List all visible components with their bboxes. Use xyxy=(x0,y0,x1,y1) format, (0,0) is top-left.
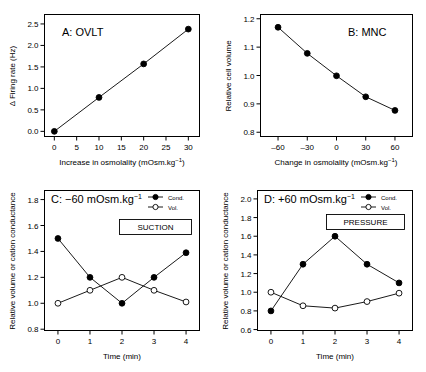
panel-a-title: A: OVLT xyxy=(62,26,104,38)
panel-b-plot: –60–3003060 0.80.91.01.11.2 B: MNC Chang… xyxy=(213,0,426,186)
data-point xyxy=(119,274,125,280)
x-tick-label: 10 xyxy=(95,143,104,152)
series-line-cond xyxy=(58,238,186,303)
x-tick-label: 25 xyxy=(162,143,171,152)
y-tick-label: 1.4 xyxy=(240,251,252,260)
y-tick-label: 1.5 xyxy=(27,63,39,72)
data-point xyxy=(55,236,61,242)
panel-a-xlabel: Increase in osmolality (mOsm.kg−1) xyxy=(59,157,185,167)
series-line-firingrate xyxy=(54,29,188,131)
x-tick-label: 3 xyxy=(152,337,157,346)
panel-b-ylabel: Relative cell volume xyxy=(224,40,233,112)
data-point xyxy=(392,108,398,114)
y-tick-label: 1.6 xyxy=(27,222,39,231)
data-point xyxy=(51,128,57,134)
y-tick-label: 1.8 xyxy=(240,214,252,223)
panel-d: 01234 0.60.81.01.21.41.61.82.0 D: +60 mO… xyxy=(213,186,426,372)
x-tick-label: 20 xyxy=(139,143,148,152)
y-tick-label: 0.9 xyxy=(243,100,255,109)
legend-label-vol-c: Vol. xyxy=(168,205,178,211)
y-tick-label: 1.8 xyxy=(27,196,39,205)
data-point xyxy=(151,274,157,280)
data-point xyxy=(141,61,147,67)
panel-b: –60–3003060 0.80.91.01.11.2 B: MNC Chang… xyxy=(213,0,426,186)
panel-d-yticks: 0.60.81.01.21.41.61.82.0 xyxy=(240,195,257,335)
x-tick-label: 1 xyxy=(301,337,306,346)
panel-d-plot: 01234 0.60.81.01.21.41.61.82.0 D: +60 mO… xyxy=(213,186,426,372)
y-tick-label: 0.0 xyxy=(27,127,39,136)
panel-a: 051015202530 0.00.51.01.52.02.5 A: OVLT … xyxy=(0,0,213,186)
panel-c-title: C: −60 mOsm.kg−1 xyxy=(51,193,142,205)
legend-marker-vol-d xyxy=(366,204,371,209)
y-tick-label: 2.0 xyxy=(240,195,252,204)
x-tick-label: 3 xyxy=(365,337,370,346)
data-point xyxy=(364,261,370,267)
panel-a-xlabel-main: Increase in osmolality (mOsm.kg xyxy=(59,158,175,167)
panel-c-yticks: 0.81.01.21.41.61.8 xyxy=(27,196,44,335)
x-tick-label: 4 xyxy=(397,337,402,346)
panel-a-xticks: 051015202530 xyxy=(52,137,193,152)
x-tick-label: 60 xyxy=(391,143,400,152)
legend-label-cond-c: Cond. xyxy=(168,195,184,201)
panel-c-ylabel: Relative volume or cation conductance xyxy=(8,192,17,330)
data-point xyxy=(87,287,93,293)
y-tick-label: 1.1 xyxy=(243,43,255,52)
x-tick-label: 0 xyxy=(334,143,339,152)
x-tick-label: –60 xyxy=(271,143,285,152)
panel-a-plot: 051015202530 0.00.51.01.52.02.5 A: OVLT … xyxy=(0,0,213,186)
data-point xyxy=(183,299,189,305)
legend-marker-vol-c xyxy=(153,204,158,209)
x-tick-label: 15 xyxy=(117,143,126,152)
panel-d-data xyxy=(268,233,402,313)
pressure-label: PRESSURE xyxy=(343,218,387,227)
y-tick-label: 2.5 xyxy=(27,20,39,29)
x-tick-label: 0 xyxy=(52,143,57,152)
suction-label: SUCTION xyxy=(138,223,174,232)
panel-d-ylabel: Relative volume or cation conductance xyxy=(221,192,230,330)
panel-c-data xyxy=(55,236,189,307)
data-point xyxy=(268,308,274,314)
panel-a-ylabel: Δ Firing rate (Hz) xyxy=(8,45,17,106)
y-tick-label: 1.0 xyxy=(243,72,255,81)
x-tick-label: 2 xyxy=(120,337,125,346)
panel-c-plot: 01234 0.81.01.21.41.61.8 C: −60 mOsm.kg−… xyxy=(0,186,213,372)
panel-b-xlabel: Change in osmolality (mOsm.kg−1) xyxy=(275,157,398,167)
y-tick-label: 0.8 xyxy=(240,307,252,316)
panel-a-data xyxy=(51,26,191,134)
y-tick-label: 1.6 xyxy=(240,232,252,241)
panel-c-legend: Cond. Vol. xyxy=(148,194,184,210)
series-line-relativecellvolume xyxy=(278,27,395,110)
legend-marker-cond-c xyxy=(153,194,158,199)
y-tick-label: 1.2 xyxy=(243,15,255,24)
x-tick-label: 5 xyxy=(74,143,79,152)
y-tick-label: 0.8 xyxy=(27,325,39,334)
y-tick-label: 1.4 xyxy=(27,247,39,256)
panel-b-title: B: MNC xyxy=(348,26,387,38)
panel-d-annotation-box: PRESSURE xyxy=(327,215,405,230)
y-tick-label: 0.8 xyxy=(243,128,255,137)
data-point xyxy=(275,24,281,30)
x-tick-label: –30 xyxy=(301,143,315,152)
data-point xyxy=(332,233,338,239)
data-point xyxy=(364,299,370,305)
data-point xyxy=(183,250,189,256)
figure-canvas: 051015202530 0.00.51.01.52.02.5 A: OVLT … xyxy=(0,0,426,372)
panel-d-title: D: +60 mOsm.kg−1 xyxy=(264,193,355,205)
data-point xyxy=(96,95,102,101)
panel-b-xticks: –60–3003060 xyxy=(271,137,400,152)
data-point xyxy=(396,280,402,286)
data-point xyxy=(334,73,340,79)
y-tick-label: 1.0 xyxy=(240,288,252,297)
data-point xyxy=(300,303,306,309)
data-point xyxy=(151,287,157,293)
legend-label-vol-d: Vol. xyxy=(381,205,391,211)
data-point xyxy=(268,289,274,295)
data-point xyxy=(304,50,310,56)
x-tick-label: 1 xyxy=(88,337,93,346)
y-tick-label: 0.6 xyxy=(240,326,252,335)
series-line-vol xyxy=(58,277,186,303)
data-point xyxy=(119,300,125,306)
y-tick-label: 1.0 xyxy=(27,299,39,308)
data-point xyxy=(300,261,306,267)
data-point xyxy=(332,305,338,311)
